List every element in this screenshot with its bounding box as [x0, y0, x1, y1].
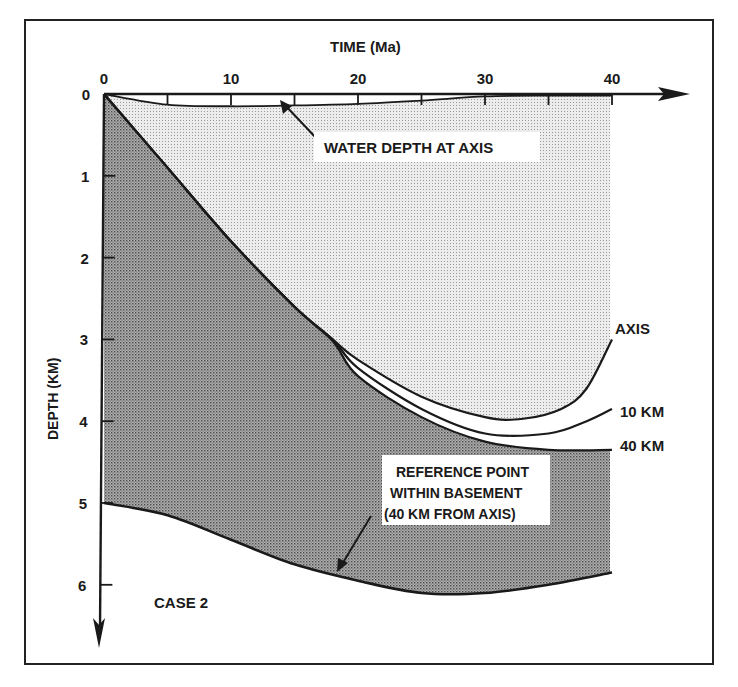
x-tick-label: 30	[477, 70, 494, 87]
reference-label-line2: WITHIN BASEMENT	[390, 485, 523, 501]
x-tick-label: 20	[350, 70, 367, 87]
x-tick-label: 0	[100, 70, 108, 87]
y-tick-label: 2	[80, 250, 88, 267]
y-tick-label: 5	[79, 495, 87, 512]
y-axis-line	[100, 94, 104, 630]
y-tick-label: 0	[82, 86, 90, 103]
subsidence-chart: 0102030400123456 TIME (Ma) DEPTH (KM) WA…	[0, 0, 738, 687]
x-tick-label: 40	[604, 70, 621, 87]
y-tick-label: 6	[78, 577, 86, 594]
y-tick-label: 3	[80, 331, 88, 348]
40km-label: 40 KM	[620, 437, 664, 454]
y-tick-label: 1	[81, 168, 89, 185]
reference-label-line3: (40 KM FROM AXIS)	[384, 506, 516, 522]
water-depth-label: WATER DEPTH AT AXIS	[324, 139, 493, 156]
x-axis-title: TIME (Ma)	[330, 38, 401, 55]
y-axis-title: DEPTH (KM)	[45, 358, 61, 440]
x-tick-label: 10	[223, 70, 240, 87]
y-tick-label: 4	[79, 413, 88, 430]
reference-label-line1: REFERENCE POINT	[396, 464, 529, 480]
case-label: CASE 2	[154, 594, 208, 611]
10km-label: 10 KM	[620, 403, 664, 420]
axis-label: AXIS	[615, 320, 650, 337]
